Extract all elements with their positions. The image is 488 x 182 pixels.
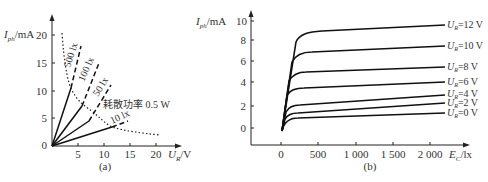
label-10lx: 10 lx [108, 107, 131, 126]
curve-label-0v: UR=0 V [447, 107, 479, 119]
y-tick-label: 10 [236, 15, 248, 27]
x-tick-label: 15 [125, 148, 137, 160]
curve-label-12v: UR=12 V [447, 19, 484, 31]
y-tick-label: 2 [241, 100, 247, 112]
curve-6v [282, 82, 445, 131]
y-axis-label-a: Iph/mA [3, 28, 34, 43]
x-tick-label: 20 [151, 148, 163, 160]
curve-0v [282, 113, 445, 131]
x-axis-arrow-icon [463, 143, 470, 148]
y-tick-label: 15 [36, 57, 48, 69]
x-tick-label: 1 000 [344, 148, 369, 160]
y-tick-label: 4 [241, 76, 247, 88]
y-axis-label-b: Iph/mA [195, 15, 226, 30]
curve-label-10v: UR=10 V [447, 40, 484, 52]
x-tick-label: 2 000 [418, 148, 443, 160]
curve-label-8v: UR=8 V [447, 61, 479, 73]
x-tick-label: 500 [310, 148, 327, 160]
label-100lx: 100 lx [76, 55, 96, 83]
x-tick-label: 0 [278, 148, 284, 160]
y-axis-arrow-icon [50, 14, 55, 21]
label-power: 耗散功率 0.5 W [103, 98, 171, 110]
x-tick-label: 5 [75, 148, 81, 160]
label-50lx: 50 lx [90, 75, 110, 98]
y-tick-label: 5 [42, 112, 48, 124]
y-tick-label: 6 [241, 55, 247, 67]
chart-b: 0 2 4 6 8 10 Iph/mA 0 500 1 000 1 500 2 … [195, 10, 484, 173]
y-tick-label: 0 [241, 122, 247, 134]
y-tick-label: 8 [241, 34, 247, 46]
caption-a: (a) [99, 160, 112, 173]
curve-label-6v: UR=6 V [447, 76, 479, 88]
caption-b: (b) [364, 160, 377, 173]
x-axis-label-b: EC/lx [448, 148, 473, 163]
x-tick-label: 1 500 [381, 148, 406, 160]
x-axis-label-a: UR/V [168, 148, 191, 163]
series-10lx [52, 121, 128, 146]
y-axis-arrow-icon [249, 10, 254, 17]
x-tick-label: 10 [99, 148, 111, 160]
y-tick-label: 10 [36, 85, 48, 97]
curve-8v [282, 67, 445, 131]
chart-a: 0 5 10 15 20 Iph/mA 5 10 15 20 UR/V [3, 14, 191, 173]
y-tick-label: 20 [36, 29, 48, 41]
figure: 0 5 10 15 20 Iph/mA 5 10 15 20 UR/V [0, 0, 488, 182]
origin-label: 0 [42, 139, 48, 151]
